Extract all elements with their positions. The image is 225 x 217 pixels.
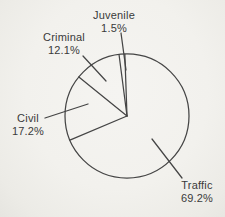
- slice-percent-criminal: 12.1%: [43, 45, 85, 57]
- slice-label-criminal: Criminal 12.1%: [43, 32, 85, 56]
- slice-name-juvenile: Juvenile: [93, 10, 135, 22]
- scanned-page: Juvenile 1.5% Criminal 12.1% Civil 17.2%…: [0, 0, 225, 217]
- slice-percent-juvenile: 1.5%: [93, 23, 135, 35]
- slice-name-traffic: Traffic: [181, 180, 213, 192]
- slice-percent-civil: 17.2%: [12, 126, 44, 138]
- slice-label-juvenile: Juvenile 1.5%: [93, 10, 135, 34]
- pie-chart-figure: Juvenile 1.5% Criminal 12.1% Civil 17.2%…: [0, 0, 225, 217]
- slice-percent-traffic: 69.2%: [181, 193, 213, 205]
- slice-label-civil: Civil 17.2%: [12, 113, 44, 137]
- slice-name-criminal: Criminal: [43, 32, 85, 44]
- slice-label-traffic: Traffic 69.2%: [181, 180, 213, 204]
- slice-name-civil: Civil: [12, 113, 44, 125]
